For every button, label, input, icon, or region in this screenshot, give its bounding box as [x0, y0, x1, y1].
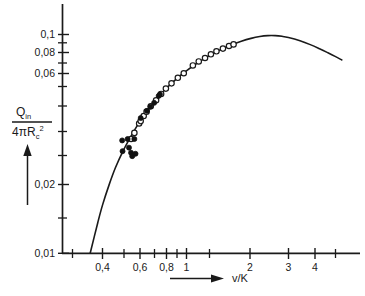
x-label-0.6: 0,6	[133, 261, 148, 273]
y-title-c-sub: c	[36, 132, 40, 141]
x-label-0.4: 0,4	[95, 261, 110, 273]
y-title-4piR: 4πR	[12, 125, 36, 139]
up-arrow-head	[23, 144, 31, 156]
x-label-1: 1	[184, 261, 190, 273]
right-arrow-icon	[170, 274, 224, 282]
open-circle-markers	[128, 42, 236, 142]
up-arrow-icon	[23, 144, 31, 205]
y-axis-title: Qin 4πRc2	[12, 105, 52, 141]
open-data-point-18	[220, 46, 225, 51]
x-label-0.8: 0,8	[159, 261, 174, 273]
filled-data-point-0	[120, 138, 125, 143]
filled-data-point-13	[157, 92, 162, 97]
y-label-0.06: 0,06	[35, 67, 56, 79]
data-curve	[90, 36, 342, 254]
x-label-4: 4	[312, 261, 318, 273]
filled-data-point-11	[152, 100, 157, 105]
y-major-ticks	[58, 35, 69, 254]
open-data-point-13	[190, 63, 195, 68]
open-data-point-16	[208, 52, 213, 57]
x-label-2: 2	[247, 261, 253, 273]
filled-data-point-1	[125, 136, 130, 141]
y-label-0.02: 0,02	[35, 178, 56, 190]
y-label-0.01: 0,01	[35, 247, 56, 259]
y-axis-title-denominator: 4πRc2	[12, 124, 44, 141]
x-label-3: 3	[286, 261, 292, 273]
y-axis-title-numerator: Qin	[16, 105, 31, 121]
filled-data-point-8	[138, 116, 143, 121]
filled-data-point-6	[132, 136, 137, 141]
y-title-2-sup: 2	[39, 124, 43, 133]
filled-data-point-2	[120, 149, 125, 154]
open-data-point-20	[231, 42, 236, 47]
open-data-point-15	[202, 55, 207, 60]
open-data-point-12	[181, 71, 186, 76]
open-data-point-10	[169, 81, 174, 86]
open-data-point-9	[163, 86, 168, 91]
open-data-point-14	[196, 59, 201, 64]
open-data-point-11	[175, 75, 180, 80]
y-label-0.1: 0,1	[40, 28, 55, 40]
axes-group	[62, 4, 360, 254]
open-data-point-1	[132, 130, 137, 135]
y-title-in-sub: in	[25, 112, 31, 121]
chart-figure: 0,1 0,08 0,06 0,02 0,01 0,4 0,6 0,8 1	[0, 0, 365, 296]
y-title-Q: Q	[16, 105, 25, 119]
open-data-point-17	[214, 49, 219, 54]
filled-data-point-7	[133, 151, 138, 156]
x-axis-title: v/K	[232, 272, 249, 284]
right-arrow-head	[211, 274, 224, 282]
y-label-0.08: 0,08	[35, 46, 56, 58]
filled-data-point-3	[126, 145, 131, 150]
chart-svg: 0,1 0,08 0,06 0,02 0,01 0,4 0,6 0,8 1	[0, 0, 365, 296]
